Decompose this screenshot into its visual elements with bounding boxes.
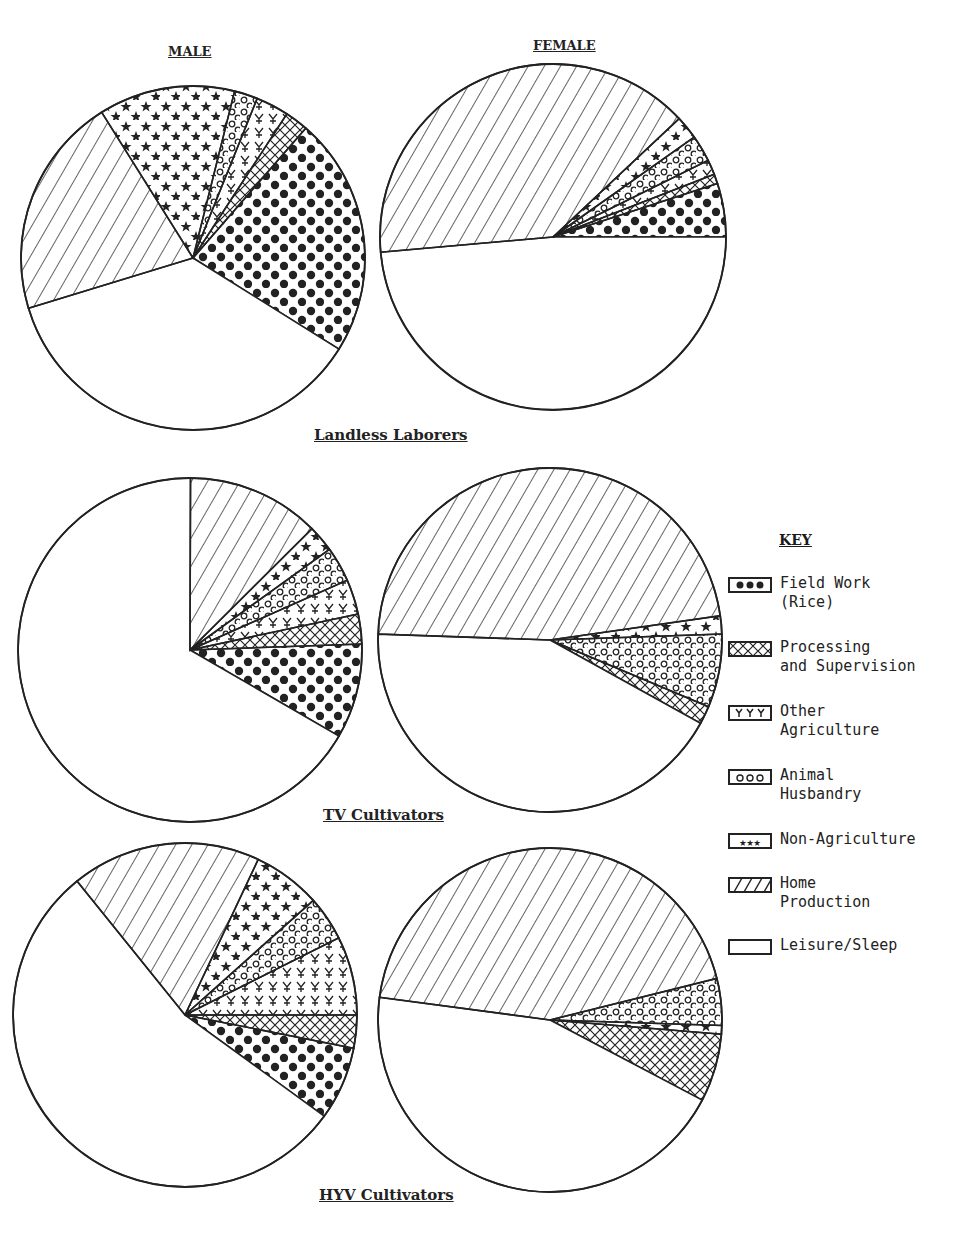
pie-hyv-cultivators-male	[13, 843, 357, 1187]
key-label: Field Work (Rice)	[780, 574, 870, 612]
group-label-hyv: HYV Cultivators	[319, 1186, 454, 1204]
male-heading: MALE	[168, 44, 212, 59]
home-production-swatch-icon	[728, 877, 772, 893]
pie-landless-laborers-female	[380, 64, 726, 410]
pie-charts-canvas	[0, 0, 978, 1242]
svg-text:★★★: ★★★	[739, 835, 761, 849]
slice-leisure-sleep	[381, 237, 726, 410]
slice-home-production	[378, 468, 720, 640]
key-item-processing: Processing and Supervision	[728, 638, 915, 676]
key-item-home: Home Production	[728, 874, 870, 912]
pie-landless-laborers-male	[21, 86, 365, 430]
key-label: Home Production	[780, 874, 870, 912]
pie-hyv-cultivators-female	[378, 848, 722, 1192]
key-item-animal: Animal Husbandry	[728, 766, 861, 804]
key-label: Processing and Supervision	[780, 638, 915, 676]
pie-group	[13, 64, 726, 1192]
key-label: Leisure/Sleep	[780, 936, 897, 955]
key-item-leisure: Leisure/Sleep	[728, 936, 897, 955]
key-label: Animal Husbandry	[780, 766, 861, 804]
group-label-tv: TV Cultivators	[323, 806, 444, 824]
key-item-otherag: Other Agriculture	[728, 702, 879, 740]
leisure-sleep-swatch-icon	[728, 939, 772, 955]
pie-tv-cultivators-male	[18, 478, 362, 822]
key-label: Other Agriculture	[780, 702, 879, 740]
field-work-swatch-icon	[728, 577, 772, 593]
key-title: KEY	[779, 532, 812, 548]
key-label: Non-Agriculture	[780, 830, 915, 849]
pie-tv-cultivators-female	[378, 468, 722, 812]
group-label-landless: Landless Laborers	[314, 426, 468, 444]
female-heading: FEMALE	[533, 38, 596, 53]
processing-swatch-icon	[728, 641, 772, 657]
key-item-nonag: ★★★ Non-Agriculture	[728, 830, 915, 849]
key-item-field: Field Work (Rice)	[728, 574, 870, 612]
animal-husbandry-swatch-icon	[728, 769, 772, 785]
non-agriculture-swatch-icon: ★★★	[728, 833, 772, 849]
other-agriculture-swatch-icon	[728, 705, 772, 721]
